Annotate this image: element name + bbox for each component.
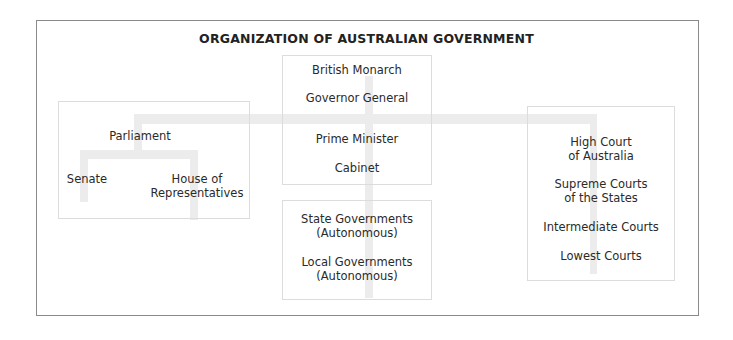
state-line-2: (Autonomous) <box>282 226 432 240</box>
diagram-title: ORGANIZATION OF AUSTRALIAN GOVERNMENT <box>0 31 733 46</box>
state-line-1: State Governments <box>282 212 432 226</box>
node-cabinet: Cabinet <box>282 161 432 175</box>
house-line-1: House of <box>148 172 246 186</box>
node-high-court: High Court of Australia <box>527 135 675 163</box>
node-governor-general: Governor General <box>282 91 432 105</box>
node-british-monarch: British Monarch <box>282 63 432 77</box>
high-court-line-1: High Court <box>527 135 675 149</box>
local-line-1: Local Governments <box>282 255 432 269</box>
high-court-line-2: of Australia <box>527 149 675 163</box>
node-prime-minister: Prime Minister <box>282 132 432 146</box>
node-state-governments: State Governments (Autonomous) <box>282 212 432 240</box>
node-local-governments: Local Governments (Autonomous) <box>282 255 432 283</box>
supreme-line-1: Supreme Courts <box>527 177 675 191</box>
node-lowest-courts: Lowest Courts <box>527 249 675 263</box>
node-supreme-courts: Supreme Courts of the States <box>527 177 675 205</box>
node-senate: Senate <box>60 172 114 186</box>
node-intermediate-courts: Intermediate Courts <box>527 220 675 234</box>
local-line-2: (Autonomous) <box>282 269 432 283</box>
house-line-2: Representatives <box>148 186 246 200</box>
node-house-of-representatives: House of Representatives <box>148 172 246 200</box>
node-parliament: Parliament <box>80 129 200 143</box>
legislative-box <box>58 101 250 219</box>
supreme-line-2: of the States <box>527 191 675 205</box>
